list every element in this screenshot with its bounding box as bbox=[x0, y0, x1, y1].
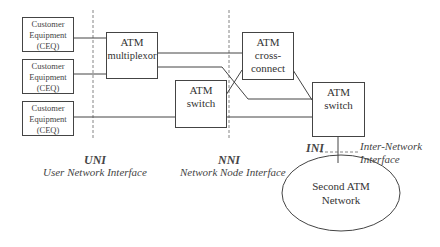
ceq-label-line: Equipment bbox=[29, 72, 66, 83]
node-label-line: ATM bbox=[256, 36, 279, 49]
ceq-label-line: (CEQ) bbox=[37, 83, 60, 94]
atm-network-diagram: Customer Equipment (CEQ) Customer Equipm… bbox=[0, 0, 440, 247]
ellipse-label-line: Second ATM bbox=[290, 179, 392, 193]
ini-label: INI bbox=[306, 141, 324, 156]
node-label-line: switch bbox=[187, 97, 216, 110]
ceq-box-2: Customer Equipment (CEQ) bbox=[22, 59, 74, 94]
ceq-label-line: Customer bbox=[31, 19, 64, 30]
atm-switch-right-box: ATM switch bbox=[312, 82, 365, 137]
ceq-label-line: Customer bbox=[31, 61, 64, 72]
ceq-label-line: (CEQ) bbox=[37, 41, 60, 52]
node-label-line: ATM bbox=[327, 86, 350, 99]
ceq-label-line: Equipment bbox=[29, 114, 66, 125]
ceq-label-line: (CEQ) bbox=[37, 125, 60, 136]
nni-full-label: Network Node Interface bbox=[180, 166, 286, 178]
node-label-line: multiplexor bbox=[108, 49, 157, 62]
ceq-label-line: Equipment bbox=[29, 30, 66, 41]
node-label-line: switch bbox=[324, 99, 353, 112]
uni-full-label: User Network Interface bbox=[43, 166, 147, 178]
ceq-box-1: Customer Equipment (CEQ) bbox=[22, 17, 74, 52]
atm-switch-mid-box: ATM switch bbox=[175, 80, 227, 128]
ini-full-label-2: Interface bbox=[360, 153, 400, 165]
node-label-line: connect bbox=[251, 62, 285, 75]
node-label-line: ATM bbox=[189, 84, 212, 97]
ceq-label-line: Customer bbox=[31, 103, 64, 114]
ceq-box-3: Customer Equipment (CEQ) bbox=[22, 101, 74, 136]
ini-full-label-1: Inter-Network bbox=[360, 140, 422, 152]
atm-multiplexor-box: ATM multiplexor bbox=[106, 32, 158, 79]
node-label-line: ATM bbox=[120, 36, 143, 49]
second-network-label: Second ATM Network bbox=[290, 179, 392, 207]
atm-cross-connect-box: ATM cross- connect bbox=[242, 32, 294, 80]
ellipse-label-line: Network bbox=[290, 193, 392, 207]
node-label-line: cross- bbox=[255, 49, 281, 62]
